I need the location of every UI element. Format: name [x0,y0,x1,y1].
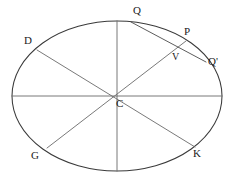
point-label-q-prime: Q' [208,56,218,67]
diameter-lines-group [12,21,222,171]
ellipse-diagram-figure: Q P Q' V D C G K [0,0,235,179]
point-label-g: G [31,150,39,161]
point-label-v: V [172,52,179,62]
point-label-p: P [184,26,190,37]
point-label-c: C [116,98,123,109]
point-label-d: D [24,35,32,46]
point-label-k: K [193,148,201,159]
diameter-line-g-to-p [47,41,186,148]
chord-line-q-to-qprime [131,22,206,62]
point-label-q: Q [133,5,141,16]
chord-lines-group [131,22,206,62]
